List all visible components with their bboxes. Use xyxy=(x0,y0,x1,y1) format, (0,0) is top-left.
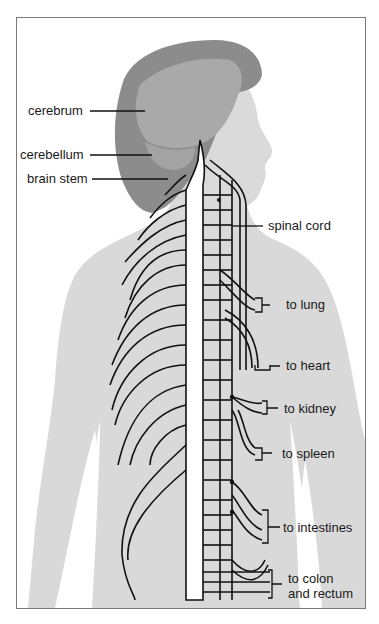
spinal-cord xyxy=(186,140,204,600)
label-cerebellum: cerebellum xyxy=(20,147,84,162)
label-to-intestines: to intestines xyxy=(283,520,352,535)
label-spinal-cord: spinal cord xyxy=(268,218,331,233)
label-to-kidney: to kidney xyxy=(284,401,336,416)
label-brain-stem: brain stem xyxy=(27,171,88,186)
label-to-heart: to heart xyxy=(286,358,330,373)
label-to-lung: to lung xyxy=(286,297,325,312)
label-to-colon: to colon xyxy=(288,571,334,586)
label-to-spleen: to spleen xyxy=(282,446,335,461)
label-cerebrum: cerebrum xyxy=(28,103,83,118)
label-and-rectum: and rectum xyxy=(288,586,353,601)
